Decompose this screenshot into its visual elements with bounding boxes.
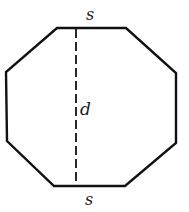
octagon-diagram: s d s — [0, 0, 189, 212]
diameter-label: d — [80, 99, 91, 119]
octagon-outline — [6, 28, 176, 186]
bottom-side-label: s — [85, 190, 93, 209]
top-side-label: s — [86, 5, 94, 24]
